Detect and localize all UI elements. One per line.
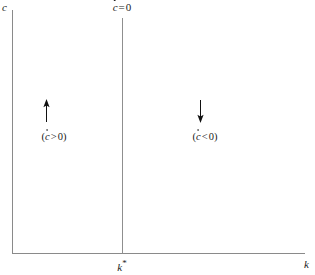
cdot-zero-label: c=0: [113, 1, 132, 14]
phase-diagram: c k c=0 k* (c>0) (c<0): [0, 0, 315, 275]
x-axis-line: [12, 253, 305, 254]
up-arrow-icon: [41, 99, 52, 123]
left-operator: >: [50, 131, 58, 142]
right-operator: <: [201, 131, 209, 142]
y-axis-label: c: [2, 2, 7, 13]
region-label-left: (c>0): [42, 131, 67, 143]
right-close-paren: ): [214, 131, 218, 142]
x-axis-label: k: [304, 259, 309, 270]
cdot-symbol: c: [113, 1, 118, 14]
cdot-zero-locus-line: [122, 18, 123, 254]
kstar-superscript: *: [122, 258, 127, 268]
locus-value: 0: [126, 1, 132, 13]
down-arrow-icon: [195, 99, 206, 123]
right-cdot-symbol: c: [196, 131, 201, 143]
equals-operator: =: [118, 1, 126, 13]
left-close-paren: ): [63, 131, 67, 142]
region-label-right: (c<0): [193, 131, 218, 143]
left-cdot-symbol: c: [45, 131, 50, 143]
y-axis-line: [12, 10, 13, 254]
kstar-tick-label: k*: [117, 257, 126, 273]
